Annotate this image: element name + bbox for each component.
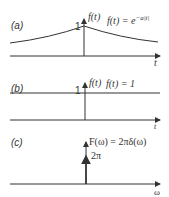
panel-b-label: (b): [11, 84, 23, 94]
axis-label-a: f(t): [88, 12, 100, 22]
equation-a-exponent: −a|t|: [135, 14, 149, 22]
panel-b-graph: [10, 83, 160, 120]
panel-c-graph: [10, 142, 160, 184]
value-label-a: 1: [75, 22, 81, 32]
equation-c: F(ω) = 2πδ(ω): [89, 137, 146, 147]
value-label-b: 1: [75, 86, 81, 96]
panel-a-label: (a): [11, 21, 23, 31]
t-label-b: t: [154, 122, 156, 132]
diagram-canvas: [0, 0, 169, 197]
equation-a: f(t) = e−a|t|: [107, 13, 149, 26]
t-label-a: t: [154, 58, 157, 68]
panel-c-label: (c): [11, 138, 23, 148]
equation-a-base: f(t) = e: [107, 15, 135, 26]
equation-b: f(t) = 1: [106, 79, 135, 89]
impulse-label: 2π: [91, 151, 101, 161]
omega-label: ω: [154, 187, 160, 197]
axis-label-b: f(t): [89, 78, 101, 88]
